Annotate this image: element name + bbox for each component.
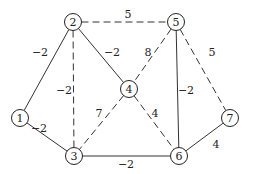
edge-weight-7-6: 4	[213, 138, 220, 151]
node-4: 4	[121, 81, 138, 98]
edge-2-3	[73, 30, 74, 147]
node-label: 2	[70, 16, 77, 29]
edge-5-4	[134, 29, 171, 82]
edge-weight-2-3: −2	[56, 84, 72, 97]
edge-weight-2-4: −2	[104, 46, 120, 59]
node-3: 3	[66, 148, 83, 165]
nodes-layer: 1234567	[12, 14, 239, 165]
edge-weight-5-7: 5	[209, 46, 216, 59]
node-5: 5	[168, 14, 185, 31]
node-label: 6	[176, 150, 183, 163]
edge-weight-3-6: −2	[118, 158, 134, 171]
edge-4-3	[79, 96, 123, 150]
node-7: 7	[222, 110, 239, 127]
node-label: 1	[17, 112, 24, 125]
edge-4-6	[134, 96, 174, 149]
edge-1-2	[24, 29, 69, 110]
node-label: 4	[126, 83, 133, 96]
edge-weight-2-5: 5	[125, 8, 132, 21]
edge-weight-5-4: 8	[145, 46, 152, 59]
node-6: 6	[171, 148, 188, 165]
weighted-graph-diagram: −2−25−2−28−2574−24 1234567	[0, 0, 256, 174]
edge-weight-4-3: 7	[96, 107, 103, 120]
edge-weight-1-3: −2	[31, 122, 47, 135]
edge-weight-4-6: 4	[152, 107, 159, 120]
node-label: 3	[71, 150, 78, 163]
edge-weight-1-2: −2	[32, 46, 48, 59]
edge-5-7	[180, 29, 226, 110]
node-label: 7	[227, 112, 234, 125]
node-2: 2	[65, 14, 82, 31]
node-label: 5	[173, 16, 180, 29]
edge-weight-5-6: −2	[178, 84, 194, 97]
node-1: 1	[12, 110, 29, 127]
